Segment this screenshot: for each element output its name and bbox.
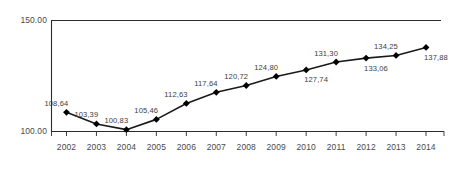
- x-axis-tick-label: 2002: [50, 142, 82, 152]
- x-axis-tick-label: 2007: [200, 142, 232, 152]
- line-chart: 100.00150.00 200220032004200520062007200…: [0, 0, 459, 170]
- data-point-label: 133,06: [364, 64, 388, 73]
- data-point-label: 124,80: [254, 63, 278, 72]
- x-axis-tick-label: 2009: [260, 142, 292, 152]
- x-axis-tick-label: 2006: [170, 142, 202, 152]
- x-axis-ticks: [52, 132, 445, 137]
- data-point-marker: [213, 89, 220, 96]
- y-axis-tick-label: 100.00: [0, 126, 47, 136]
- data-point-marker: [333, 59, 340, 66]
- data-point-label: 112,63: [164, 90, 187, 99]
- data-point-marker: [243, 82, 250, 89]
- data-point-label: 127,74: [304, 75, 328, 84]
- data-point-label: 103,39: [74, 110, 98, 119]
- data-point-label: 137,88: [424, 53, 448, 62]
- data-point-marker: [423, 44, 430, 51]
- data-point-marker: [303, 67, 310, 74]
- x-axis-tick-label: 2012: [350, 142, 382, 152]
- data-point-label: 120,72: [224, 72, 248, 81]
- data-point-marker: [363, 55, 370, 62]
- data-point-label: 108,64: [44, 99, 68, 108]
- x-axis-tick-label: 2011: [320, 142, 352, 152]
- data-point-label: 100,83: [104, 116, 128, 125]
- data-point-label: 134,25: [374, 42, 398, 51]
- x-axis-tick-label: 2013: [380, 142, 412, 152]
- x-axis-tick-label: 2008: [230, 142, 262, 152]
- data-point-label: 117,64: [194, 79, 217, 88]
- data-point-marker: [93, 121, 100, 128]
- x-axis-tick-label: 2005: [140, 142, 172, 152]
- data-point-label: 131,30: [314, 49, 338, 58]
- data-point-marker: [153, 116, 160, 123]
- x-axis-tick-label: 2003: [80, 142, 112, 152]
- x-axis-tick-label: 2010: [290, 142, 322, 152]
- x-axis-tick-label: 2004: [110, 142, 142, 152]
- data-point-marker: [183, 100, 190, 107]
- data-point-marker: [63, 109, 70, 116]
- data-point-marker: [273, 73, 280, 80]
- y-axis-tick-label: 150.00: [0, 15, 47, 25]
- x-axis-tick-label: 2014: [410, 142, 442, 152]
- data-point-label: 105,46: [134, 106, 158, 115]
- data-point-marker: [393, 52, 400, 59]
